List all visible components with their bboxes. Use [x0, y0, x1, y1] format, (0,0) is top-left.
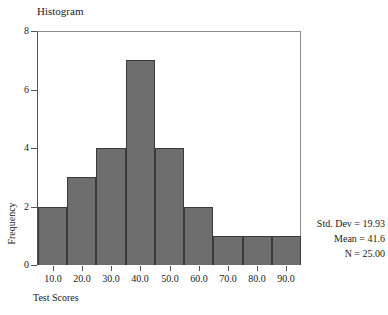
mean-annotation: Mean = 41.6 [275, 231, 385, 246]
histogram-bar [184, 207, 213, 266]
histogram-bar [38, 207, 67, 266]
histogram-bar [126, 60, 155, 265]
y-axis-tick-label: 0 [0, 260, 29, 270]
x-axis-tick [111, 266, 112, 271]
y-axis-tick [31, 207, 37, 208]
x-axis-tick [82, 266, 83, 271]
histogram-bar [67, 177, 96, 265]
y-axis-tick [31, 265, 37, 266]
n-annotation: N = 25.00 [275, 246, 385, 261]
histogram-bar [96, 148, 125, 265]
x-axis-tick [257, 266, 258, 271]
histogram-bar [243, 236, 272, 265]
histogram-bar [213, 236, 242, 265]
y-axis-tick-label: 8 [0, 26, 29, 36]
chart-title: Histogram [37, 5, 83, 18]
statistics-annotation: Std. Dev = 19.93 Mean = 41.6 N = 25.00 [275, 216, 385, 261]
std-dev-annotation: Std. Dev = 19.93 [275, 216, 385, 231]
y-axis-tick [31, 31, 37, 32]
x-axis-tick [228, 266, 229, 271]
x-axis-tick [53, 266, 54, 271]
x-axis-tick [286, 266, 287, 271]
y-axis-title: Frequency [6, 189, 17, 259]
x-axis-title: Test Scores [33, 292, 79, 304]
y-axis-tick [31, 148, 37, 149]
x-axis-tick [140, 266, 141, 271]
x-axis-tick-label: 90.0 [266, 273, 306, 284]
y-axis-tick-label: 6 [0, 85, 29, 95]
y-axis-tick-label: 4 [0, 143, 29, 153]
histogram-bar [155, 148, 184, 265]
x-axis-tick [199, 266, 200, 271]
bars-layer [38, 31, 301, 265]
x-axis-tick [170, 266, 171, 271]
y-axis-tick [31, 90, 37, 91]
histogram-figure: Histogram 02468 Frequency 10.020.030.040… [0, 0, 388, 315]
